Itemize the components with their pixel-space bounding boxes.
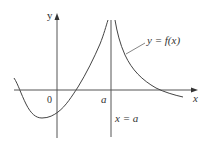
curve-label-leader [126,43,145,54]
a-tick-label: a [101,93,107,105]
asymptote-label: x = a [114,112,139,124]
y-axis-arrowhead-icon [55,13,60,20]
curve-right-branch [115,20,183,97]
graph-canvas: y x 0 a y = f(x) x = a [0,0,209,149]
y-axis-label: y [47,9,53,21]
x-axis-label: x [192,92,198,104]
origin-label: 0 [47,94,52,105]
curve-left-branch [14,20,108,118]
curve-label: y = f(x) [146,34,180,47]
